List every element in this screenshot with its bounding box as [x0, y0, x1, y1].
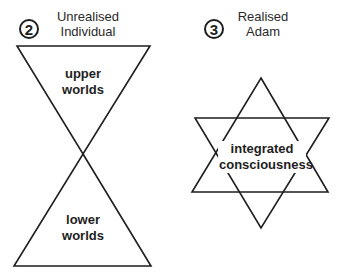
panel-title: Realised Adam: [228, 9, 298, 39]
upper-worlds-triangle: [17, 46, 150, 154]
integrated-consciousness-label: integrated consciousness: [218, 141, 306, 173]
label-line: upper: [53, 66, 113, 82]
label-line: worlds: [53, 82, 113, 98]
panel-title-line: Adam: [228, 24, 298, 39]
panel-title-line: Unrealised: [48, 9, 128, 24]
panel-title: Unrealised Individual: [48, 9, 128, 39]
panel-title-line: Individual: [48, 24, 128, 39]
diagram-canvas: [0, 0, 346, 279]
label-line: integrated: [219, 141, 305, 157]
lower-worlds-label: lower worlds: [53, 212, 113, 244]
upper-worlds-label: upper worlds: [53, 66, 113, 98]
downward-triangle: [195, 118, 329, 228]
label-line: worlds: [53, 228, 113, 244]
panel-number-badge: 3: [204, 19, 224, 39]
label-line: consciousness: [219, 157, 305, 173]
upward-triangle: [192, 78, 328, 192]
label-line: lower: [53, 212, 113, 228]
panel-title-line: Realised: [228, 9, 298, 24]
panel-number-badge: 2: [19, 19, 39, 39]
lower-worlds-triangle: [14, 154, 151, 266]
